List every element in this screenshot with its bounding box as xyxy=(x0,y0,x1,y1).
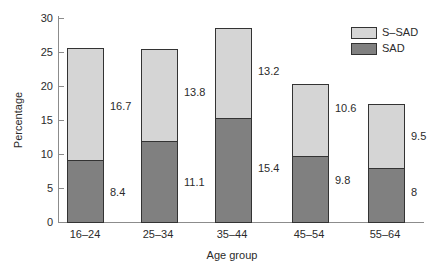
bar-value-sad-55-64: 8 xyxy=(411,186,417,198)
bar-segment-s-sad-55-64 xyxy=(368,104,404,168)
y-tick-label-30: 30 xyxy=(41,12,53,24)
y-tick-label-25: 25 xyxy=(41,46,53,58)
y-tick-label-0: 0 xyxy=(47,216,53,228)
x-tick-label-25-34: 25–34 xyxy=(143,228,174,240)
bar-segment-sad-55-64 xyxy=(368,168,404,222)
bar-segment-sad-25-34 xyxy=(141,141,177,222)
bar-value-s-sad-16-24: 16.7 xyxy=(110,100,131,112)
bar-segment-s-sad-25-34 xyxy=(141,49,177,141)
bar-value-sad-16-24: 8.4 xyxy=(110,186,125,198)
bar-value-s-sad-25-34: 13.8 xyxy=(184,86,205,98)
x-tick-label-45-54: 45–54 xyxy=(294,228,325,240)
legend-swatch-sad xyxy=(351,43,376,54)
bar-value-sad-45-54: 9.8 xyxy=(335,174,350,186)
bar-value-s-sad-45-54: 10.6 xyxy=(335,102,356,114)
y-tick-label-5: 5 xyxy=(47,182,53,194)
y-tick-label-15: 15 xyxy=(41,114,53,126)
y-tick-label-10: 10 xyxy=(41,148,53,160)
bar-value-sad-35-44: 15.4 xyxy=(258,162,279,174)
legend-label-s-sad: S–SAD xyxy=(382,26,418,38)
bar-value-s-sad-55-64: 9.5 xyxy=(411,130,426,142)
x-axis-title: Age group xyxy=(207,249,258,261)
x-tick-label-55-64: 55–64 xyxy=(370,228,401,240)
chart-container: 30 25 20 15 10 5 0 Percentage 16–24 25–3… xyxy=(0,0,441,270)
x-tick-label-16-24: 16–24 xyxy=(70,228,101,240)
bar-value-s-sad-35-44: 13.2 xyxy=(258,65,279,77)
bar-segment-sad-16-24 xyxy=(67,160,103,222)
bar-segment-sad-35-44 xyxy=(215,118,251,222)
bar-segment-s-sad-16-24 xyxy=(67,48,103,160)
x-tick-label-35-44: 35–44 xyxy=(217,228,248,240)
legend-label-sad: SAD xyxy=(382,42,405,54)
bar-segment-sad-45-54 xyxy=(292,156,328,222)
bar-segment-s-sad-45-54 xyxy=(292,84,328,156)
bar-value-sad-25-34: 11.1 xyxy=(184,176,205,188)
stacked-bar-chart: 30 25 20 15 10 5 0 Percentage 16–24 25–3… xyxy=(0,0,441,270)
y-tick-label-20: 20 xyxy=(41,80,53,92)
bar-segment-s-sad-35-44 xyxy=(215,28,251,118)
legend-swatch-s-sad xyxy=(351,27,376,38)
y-axis-title: Percentage xyxy=(12,92,24,148)
